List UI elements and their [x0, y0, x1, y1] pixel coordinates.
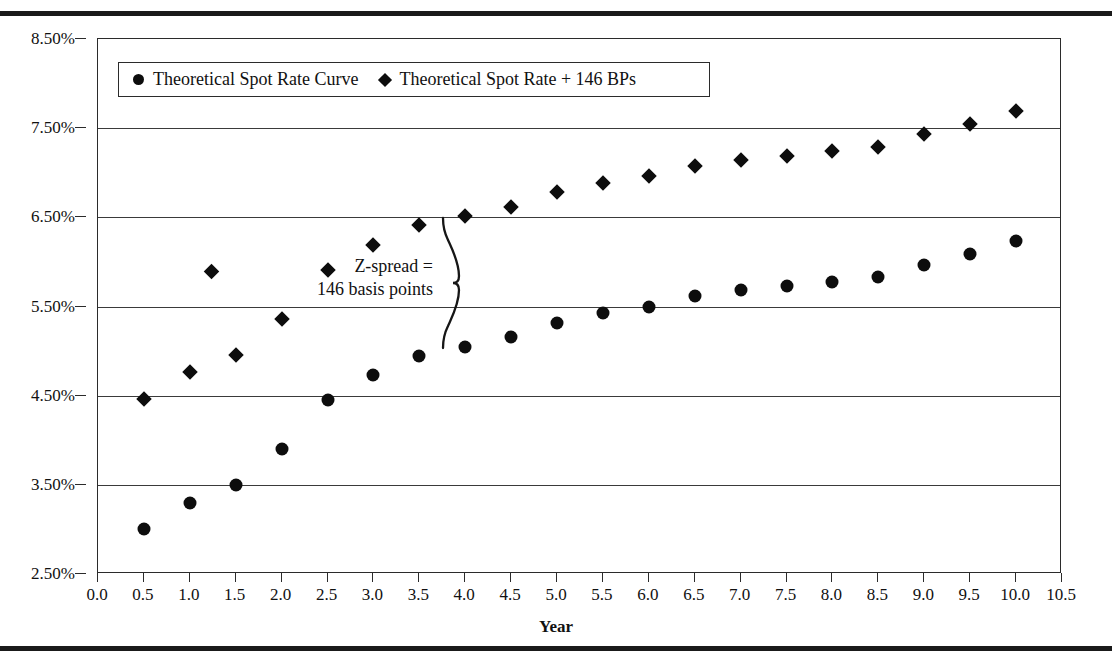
data-point-circle	[275, 443, 288, 456]
x-axis-tick-mark	[786, 573, 787, 582]
x-axis-tick-mark	[1061, 573, 1062, 582]
data-point-circle	[459, 340, 472, 353]
data-point-circle	[642, 300, 655, 313]
x-axis-tick-mark	[877, 573, 878, 582]
data-point-circle	[964, 247, 977, 260]
y-axis-tick-label: 6.50%	[31, 208, 75, 225]
x-axis-tick-label: 4.0	[454, 586, 475, 604]
x-axis-tick-mark	[969, 573, 970, 582]
data-point-circle	[321, 394, 334, 407]
data-point-circle	[734, 284, 747, 297]
x-axis-tick-mark	[923, 573, 924, 582]
x-axis-tick-label: 1.5	[224, 586, 245, 604]
data-point-circle	[826, 275, 839, 288]
data-point-diamond	[136, 391, 152, 407]
data-point-circle	[918, 258, 931, 271]
data-point-diamond	[503, 199, 519, 215]
data-point-circle	[596, 306, 609, 319]
y-axis-tick-label: 4.50%	[31, 386, 75, 403]
data-point-circle	[137, 523, 150, 536]
data-point-circle	[872, 271, 885, 284]
x-axis-tick-mark	[372, 573, 373, 582]
x-axis-tick-mark	[740, 573, 741, 582]
gridline	[98, 217, 1060, 218]
y-axis-tick-mark	[75, 127, 86, 128]
data-point-circle	[183, 496, 196, 509]
data-point-diamond	[595, 175, 611, 191]
data-point-diamond	[182, 365, 198, 381]
data-point-diamond	[457, 209, 473, 225]
x-axis-tick-mark	[464, 573, 465, 582]
x-axis-tick-mark	[327, 573, 328, 582]
x-axis-tick-mark	[831, 573, 832, 582]
x-axis-tick-mark	[648, 573, 649, 582]
y-axis-tick-label: 8.50%	[31, 30, 75, 47]
x-axis-tick-mark	[281, 573, 282, 582]
x-axis-tick-label: 10.5	[1046, 586, 1076, 604]
y-axis-tick-mark	[75, 216, 86, 217]
legend-label: Theoretical Spot Rate Curve	[153, 69, 358, 90]
data-point-diamond	[825, 144, 841, 160]
x-axis-tick-mark	[1015, 573, 1016, 582]
data-point-circle	[551, 316, 564, 329]
x-axis-tick-label: 9.0	[913, 586, 934, 604]
y-axis-tick-label: 3.50%	[31, 475, 75, 492]
bottom-rule	[0, 646, 1112, 651]
gridline	[98, 128, 1060, 129]
x-axis-tick-label: 10.0	[1000, 586, 1030, 604]
legend-entry: Theoretical Spot Rate + 146 BPs	[380, 69, 636, 90]
x-axis-tick-mark	[418, 573, 419, 582]
x-axis-tick-mark	[143, 573, 144, 582]
data-point-diamond	[228, 347, 244, 363]
gridline	[98, 485, 1060, 486]
plot-area	[97, 38, 1061, 573]
y-axis-tick-label: 7.50%	[31, 119, 75, 136]
top-rule	[0, 11, 1112, 16]
y-axis: 2.50%3.50%4.50%5.50%6.50%7.50%8.50%	[0, 0, 97, 672]
legend-entry: Theoretical Spot Rate Curve	[133, 69, 358, 90]
y-axis-tick-mark	[75, 484, 86, 485]
x-axis-tick-mark	[189, 573, 190, 582]
x-axis-tick-label: 2.5	[316, 586, 337, 604]
x-axis-tick-label: 0.5	[132, 586, 153, 604]
data-point-diamond	[412, 218, 428, 234]
x-axis-tick-label: 5.0	[545, 586, 566, 604]
x-axis-tick-label: 9.5	[959, 586, 980, 604]
chart-figure: 2.50%3.50%4.50%5.50%6.50%7.50%8.50% Theo…	[0, 0, 1112, 672]
x-axis-tick-mark	[235, 573, 236, 582]
x-axis-tick-mark	[510, 573, 511, 582]
y-axis-tick-mark	[75, 306, 86, 307]
data-point-diamond	[871, 139, 887, 155]
x-axis-title: Year	[0, 617, 1112, 637]
data-point-circle	[780, 279, 793, 292]
gridline	[98, 396, 1060, 397]
data-point-diamond	[687, 158, 703, 174]
data-point-diamond	[733, 152, 749, 168]
x-axis-tick-label: 0.0	[86, 586, 107, 604]
gridline	[98, 307, 1060, 308]
x-axis-tick-label: 7.0	[729, 586, 750, 604]
data-point-circle	[229, 478, 242, 491]
legend-label: Theoretical Spot Rate + 146 BPs	[399, 69, 636, 90]
x-axis-tick-label: 3.5	[408, 586, 429, 604]
legend-circle-icon	[133, 74, 144, 85]
x-axis-tick-label: 1.0	[178, 586, 199, 604]
data-point-diamond	[274, 311, 290, 327]
x-axis-tick-label: 8.0	[821, 586, 842, 604]
legend-diamond-icon	[378, 72, 392, 86]
data-point-circle	[1010, 235, 1023, 248]
y-axis-tick-mark	[75, 395, 86, 396]
data-point-circle	[505, 330, 518, 343]
x-axis-tick-mark	[602, 573, 603, 582]
data-point-diamond	[549, 185, 565, 201]
x-axis-tick-mark	[97, 573, 98, 582]
x-axis-tick-label: 4.5	[500, 586, 521, 604]
x-axis-tick-mark	[556, 573, 557, 582]
z-spread-annotation-label: Z-spread = 146 basis points	[178, 255, 433, 301]
x-axis-tick-label: 6.5	[683, 586, 704, 604]
data-point-diamond	[641, 169, 657, 185]
data-point-diamond	[366, 237, 382, 253]
data-point-circle	[688, 289, 701, 302]
data-point-circle	[413, 349, 426, 362]
x-axis-tick-mark	[694, 573, 695, 582]
